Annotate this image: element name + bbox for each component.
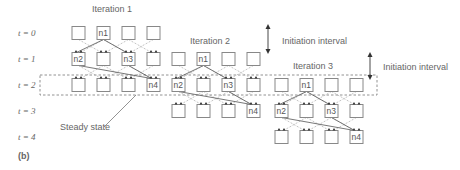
- input-arrow-icon: [155, 50, 158, 53]
- input-arrow-icon: [283, 128, 286, 131]
- input-arrow-icon: [308, 128, 311, 131]
- slot-box: [197, 105, 210, 118]
- initiation-interval-label-2: Initiation interval: [383, 62, 448, 72]
- input-arrow-icon: [205, 102, 208, 105]
- time-label-t2: t = 2: [18, 80, 36, 90]
- slot-box: [122, 27, 135, 40]
- iteration-2: Iteration 2n1n2n3n4: [172, 36, 260, 118]
- input-arrow-icon: [205, 76, 208, 79]
- node-label-n3: n3: [224, 80, 234, 90]
- input-arrow-icon: [130, 76, 133, 79]
- node-label-n1: n1: [199, 54, 209, 64]
- slot-box: [275, 131, 288, 144]
- slot-box: [172, 53, 185, 66]
- slot-box: [147, 53, 160, 66]
- input-arrow-icon: [230, 76, 233, 79]
- input-arrow-icon: [80, 76, 83, 79]
- input-arrow-icon: [105, 76, 108, 79]
- input-arrow-icon: [303, 128, 306, 131]
- arrow-up-icon: [368, 52, 373, 57]
- time-label-t4: t = 4: [18, 132, 36, 142]
- input-arrow-icon: [308, 102, 311, 105]
- time-axis-labels: t = 0t = 1t = 2t = 3t = 4: [18, 28, 36, 142]
- input-arrow-icon: [358, 128, 361, 131]
- input-arrow-icon: [150, 50, 153, 53]
- iteration-title: Iteration 2: [190, 36, 230, 46]
- time-label-t0: t = 0: [18, 28, 36, 38]
- input-arrow-icon: [250, 76, 253, 79]
- node-label-n1: n1: [302, 80, 312, 90]
- input-arrow-icon: [200, 102, 203, 105]
- node-label-n4: n4: [352, 132, 362, 142]
- slot-box: [247, 53, 260, 66]
- input-arrow-icon: [353, 102, 356, 105]
- initiation-interval-marker-2: Initiation interval: [368, 52, 449, 80]
- input-arrow-icon: [125, 76, 128, 79]
- input-arrow-icon: [328, 128, 331, 131]
- input-arrow-icon: [155, 76, 158, 79]
- node-label-n4: n4: [249, 106, 259, 116]
- input-arrow-icon: [100, 76, 103, 79]
- input-arrow-icon: [278, 102, 281, 105]
- slot-box: [172, 105, 185, 118]
- slot-box: [97, 53, 110, 66]
- input-arrow-icon: [333, 128, 336, 131]
- dependency-edge-n1-n2: [280, 92, 307, 105]
- node-label-n3: n3: [327, 106, 337, 116]
- dependency-edge-n1-n2: [77, 40, 104, 53]
- slot-box: [325, 79, 338, 92]
- iteration-title: Iteration 3: [293, 61, 333, 71]
- iteration-3: Iteration 3n1n2n3n4: [275, 61, 363, 144]
- slot-box: [222, 105, 235, 118]
- dependency-edge-n1-n3: [204, 66, 227, 79]
- node-label-n1: n1: [99, 28, 109, 38]
- slot-box: [147, 27, 160, 40]
- slot-box: [247, 79, 260, 92]
- slot-box: [275, 79, 288, 92]
- slot-box: [325, 131, 338, 144]
- node-label-n3: n3: [124, 54, 134, 64]
- input-arrow-icon: [180, 102, 183, 105]
- input-arrow-icon: [75, 50, 78, 53]
- iteration-1: Iteration 1n1n2n3n4: [72, 4, 160, 92]
- input-arrow-icon: [75, 76, 78, 79]
- dependency-edge-n1-n2: [177, 66, 204, 79]
- input-arrow-icon: [358, 102, 361, 105]
- iterations-group: Iteration 1n1n2n3n4Iteration 2n1n2n3n4It…: [72, 4, 363, 144]
- node-label-n2: n2: [277, 106, 287, 116]
- input-arrow-icon: [255, 76, 258, 79]
- time-label-t3: t = 3: [18, 106, 36, 116]
- slot-box: [350, 105, 363, 118]
- input-arrow-icon: [255, 102, 258, 105]
- node-label-n2: n2: [174, 80, 184, 90]
- arrow-down-icon: [266, 49, 271, 54]
- arrow-up-icon: [266, 24, 271, 29]
- input-arrow-icon: [200, 76, 203, 79]
- input-arrow-icon: [105, 50, 108, 53]
- time-label-t1: t = 1: [18, 54, 36, 64]
- slot-box: [350, 79, 363, 92]
- steady-state-annotation: Steady state: [60, 95, 136, 132]
- slot-box: [72, 79, 85, 92]
- initiation-interval-label-1: Initiation interval: [282, 36, 347, 46]
- input-arrow-icon: [100, 50, 103, 53]
- iteration-title: Iteration 1: [92, 4, 132, 14]
- dependency-edge-n1-n3: [104, 40, 127, 53]
- initiation-interval-marker-1: Initiation interval: [266, 24, 348, 54]
- modulo-schedule-diagram: t = 0t = 1t = 2t = 3t = 4 Iteration 1n1n…: [0, 0, 460, 170]
- input-arrow-icon: [230, 102, 233, 105]
- input-arrow-icon: [278, 128, 281, 131]
- slot-box: [122, 79, 135, 92]
- slot-box: [72, 27, 85, 40]
- input-arrow-icon: [130, 50, 133, 53]
- slot-box: [97, 79, 110, 92]
- input-arrow-icon: [175, 102, 178, 105]
- figure-label: (b): [18, 151, 30, 161]
- input-arrow-icon: [303, 102, 306, 105]
- input-arrow-icon: [333, 102, 336, 105]
- dependency-edge-n1-n3: [307, 92, 330, 105]
- arrow-down-icon: [368, 75, 373, 80]
- node-label-n4: n4: [149, 80, 159, 90]
- input-arrow-icon: [225, 102, 228, 105]
- slot-box: [300, 105, 313, 118]
